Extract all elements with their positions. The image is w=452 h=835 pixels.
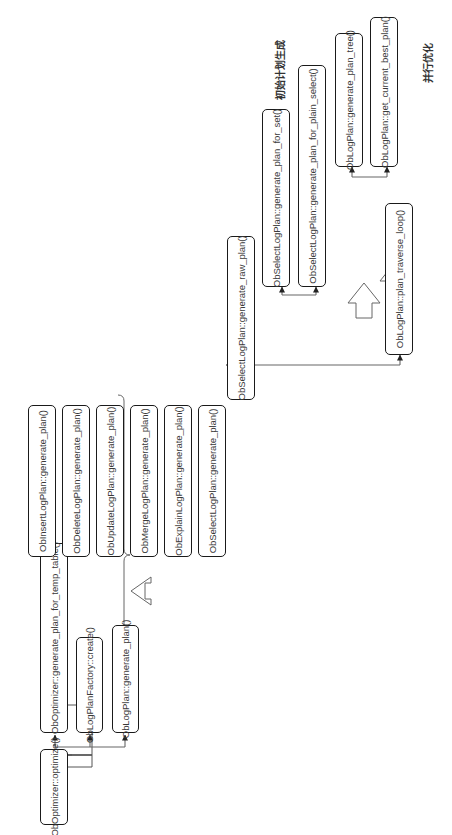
node-logplan-get-current-best-plan: ObLogPlan::get_current_best_plan() xyxy=(370,17,398,167)
node-delete-generate-plan: ObDeleteLogPlan::generate_plan() xyxy=(62,405,90,557)
node-logplan-generate-plan-tree: ObLogPlan::generate_plan_tree() xyxy=(335,33,363,167)
node-update-generate-plan: ObUpdateLogPlan::generate_plan() xyxy=(96,405,124,557)
node-select-generate-plan: ObSelectLogPlan::generate_plan() xyxy=(198,405,226,557)
node-select-generate-raw-plan: ObSelectLogPlan::generate_raw_plan() xyxy=(227,236,255,400)
node-logplan-plan-traverse-loop: ObLogPlan::plan_traverse_loop() xyxy=(385,203,413,355)
node-select-generate-plan-for-plain-select: ObSelectLogPlan::generate_plan_for_plain… xyxy=(298,65,326,287)
label-parallel-optimization: 并行优化 xyxy=(420,43,435,83)
call-flow-diagram: ObOptimizer::optimize() ObOptimizer::gen… xyxy=(0,0,452,835)
node-logplanfactory-create: ObLogPlanFactory::create() xyxy=(76,637,103,733)
label-initial-plan-generation: 初始计划生成 xyxy=(272,40,287,100)
node-explain-generate-plan: ObExplainLogPlan::generate_plan() xyxy=(164,405,192,557)
node-generate-plan-for-temp-table: ObOptimizer::generate_plan_for_temp_tabl… xyxy=(40,543,68,733)
node-logplan-generate-plan: ObLogPlan::generate_plan() xyxy=(112,625,139,733)
node-optimizer-optimize: ObOptimizer::optimize() xyxy=(40,749,68,825)
node-select-generate-plan-for-set: ObSelectLogPlan::generate_plan_for_set() xyxy=(262,109,290,287)
node-merge-generate-plan: ObMergeLogPlan::generate_plan() xyxy=(130,405,158,557)
node-insert-generate-plan: ObInsertLogPlan::generate_plan() xyxy=(28,405,56,557)
